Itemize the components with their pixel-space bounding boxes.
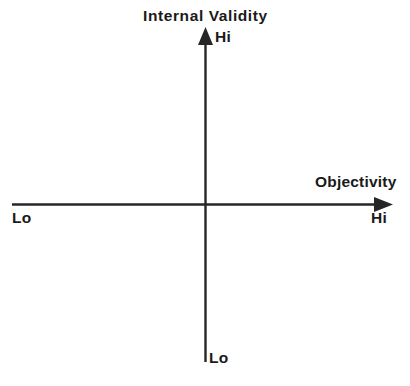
y-axis-low-label: Lo: [209, 350, 228, 366]
axes-graphic: [0, 0, 410, 386]
x-axis-low-label: Lo: [12, 210, 31, 226]
y-axis-high-label: Hi: [215, 29, 231, 45]
y-axis-title: Internal Validity: [143, 8, 268, 24]
x-axis-title: Objectivity: [315, 174, 396, 190]
quadrant-diagram: Internal Validity Hi Lo Objectivity Hi L…: [0, 0, 410, 386]
x-axis-high-label: Hi: [371, 210, 387, 226]
y-axis-arrowhead-icon: [198, 27, 213, 45]
